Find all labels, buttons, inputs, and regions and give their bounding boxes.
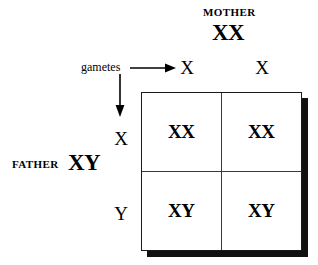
punnett-cell-row1-col0: XY (142, 172, 222, 251)
mother-label: MOTHER (203, 6, 256, 18)
father-genotype: XY (68, 150, 100, 176)
mother-genotype: XX (212, 20, 244, 46)
father-gamete-0: X (108, 128, 134, 150)
father-gamete-1: Y (108, 203, 134, 225)
mother-gamete-0: X (169, 57, 205, 79)
arrow-down-icon (112, 74, 128, 118)
punnett-cell-row0-col0: XX (142, 93, 222, 172)
father-label: FATHER (12, 158, 59, 170)
punnett-cell-row1-col1: XY (222, 172, 302, 251)
punnett-cell-row0-col1: XX (222, 93, 302, 172)
punnett-square-diagram: MOTHER XX FATHER XY gametes X X X Y XX X… (0, 0, 318, 265)
punnett-square-grid: XX XX XY XY (141, 92, 302, 251)
gametes-label: gametes (81, 60, 120, 75)
mother-gamete-1: X (244, 57, 280, 79)
